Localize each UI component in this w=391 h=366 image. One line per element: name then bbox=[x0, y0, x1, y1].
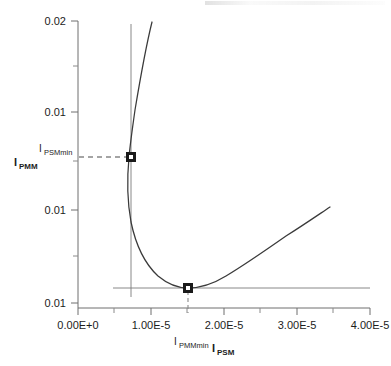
scan-artifact bbox=[205, 1, 385, 5]
y-axis-title-main: I bbox=[14, 156, 17, 168]
y-tick-label-1: 0.01 bbox=[45, 106, 66, 118]
x-tick-label-3: 3.00E-5 bbox=[278, 319, 317, 331]
psm-min-marker bbox=[126, 152, 136, 162]
x-axis-title: I PSM bbox=[212, 342, 235, 357]
x-axis-title-sub: PSM bbox=[217, 348, 235, 357]
psm-min-annotation: I PSMmin bbox=[39, 143, 72, 157]
y-axis-title-sub: PMM bbox=[19, 162, 38, 171]
y-tick-label-2: 0.01 bbox=[45, 204, 66, 216]
x-tick-label-0: 0.00E+0 bbox=[57, 319, 98, 331]
pmm-min-annotation: I PMMmin bbox=[174, 336, 209, 350]
y-axis-minor-ticks bbox=[73, 66, 78, 256]
x-tick-label-1: 1.00E-5 bbox=[132, 319, 171, 331]
data-curve bbox=[128, 22, 330, 288]
y-tick-label-3: 0.01 bbox=[45, 297, 66, 309]
x-axis-major-ticks bbox=[78, 308, 370, 315]
psm-min-label-main: I bbox=[39, 143, 42, 154]
pmm-min-label-main: I bbox=[174, 336, 177, 347]
pmm-min-label-sub: PMMmin bbox=[179, 341, 209, 350]
y-axis-major-ticks bbox=[71, 21, 78, 303]
x-tick-label-4: 4.00E-5 bbox=[351, 319, 390, 331]
y-axis-title: I PMM bbox=[14, 156, 38, 171]
line-chart-plot: 0.02 0.01 0.01 0.01 0.00E+0 1.00E-5 2.00… bbox=[0, 0, 391, 366]
x-axis-title-main: I bbox=[212, 342, 215, 354]
chart-figure: 0.02 0.01 0.01 0.01 0.00E+0 1.00E-5 2.00… bbox=[0, 0, 391, 366]
x-tick-label-2: 2.00E-5 bbox=[205, 319, 244, 331]
pmm-min-marker bbox=[183, 283, 193, 293]
y-tick-label-0: 0.02 bbox=[45, 15, 66, 27]
psm-min-label-sub: PSMmin bbox=[44, 148, 72, 157]
